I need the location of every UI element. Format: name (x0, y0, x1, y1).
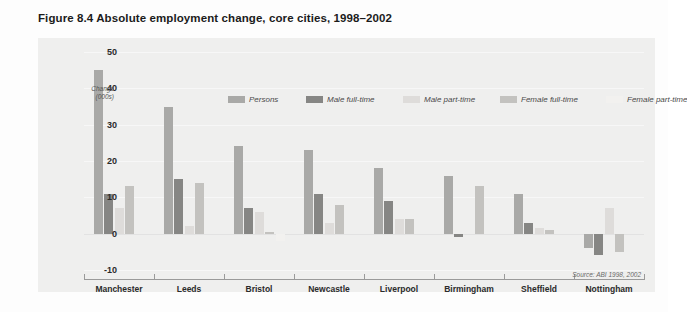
legend-label: Male part-time (424, 95, 475, 104)
bar (535, 228, 544, 233)
bar (454, 234, 463, 238)
y-axis-title-line2: (000s) (96, 93, 114, 100)
legend-item: Male full-time (306, 90, 375, 102)
x-axis-tick (644, 274, 645, 280)
bar-group (574, 52, 644, 270)
bar-groups (84, 52, 644, 270)
category-label-sheffield: Sheffield (521, 284, 557, 294)
bar (444, 176, 453, 234)
y-tick-label-30: 30 (93, 120, 117, 130)
legend-label: Female full-time (521, 95, 578, 104)
bar (185, 226, 194, 233)
y-axis-title: Change (000s) (80, 85, 114, 100)
x-axis-tick (434, 274, 435, 280)
category-label-birmingham: Birmingham (444, 284, 494, 294)
bar (384, 201, 393, 234)
legend-swatch-icon (306, 96, 323, 103)
y-tick-label-0: 0 (93, 229, 117, 239)
bar (605, 208, 614, 233)
x-axis-tick (224, 274, 225, 280)
bar (174, 179, 183, 234)
x-axis-tick (294, 274, 295, 280)
bar-group (504, 52, 574, 270)
y-tick-label--10: -10 (93, 265, 117, 275)
bar (374, 168, 383, 233)
category-label-bristol: Bristol (246, 284, 273, 294)
gridline--10 (84, 270, 644, 271)
legend-label: Persons (249, 95, 278, 104)
legend-swatch-icon (403, 96, 420, 103)
bar (164, 107, 173, 234)
bar-group (224, 52, 294, 270)
legend-swatch-icon (228, 96, 245, 103)
y-tick-label-10: 10 (93, 192, 117, 202)
legend-swatch-icon (606, 96, 623, 103)
bar (276, 234, 285, 241)
bar (265, 232, 274, 234)
y-tick-label-50: 50 (93, 47, 117, 57)
bar-group (154, 52, 224, 270)
bar-group (294, 52, 364, 270)
y-axis-ticks: 50403020100-10 (93, 38, 117, 292)
bar-group (434, 52, 504, 270)
bar-group (364, 52, 434, 270)
legend-swatch-icon (500, 96, 517, 103)
bar (475, 186, 484, 233)
bar (594, 234, 603, 256)
page-title: Figure 8.4 Absolute employment change, c… (38, 12, 392, 24)
bar (524, 223, 533, 234)
y-axis-title-line1: Change (91, 85, 114, 92)
bar (255, 212, 264, 234)
bar (325, 223, 334, 234)
legend-item: Female full-time (500, 90, 578, 102)
category-label-leeds: Leeds (177, 284, 202, 294)
bar (244, 208, 253, 233)
category-label-liverpool: Liverpool (380, 284, 418, 294)
source-note: Source: ABI 1998, 2002 (572, 271, 641, 278)
y-tick-label-20: 20 (93, 156, 117, 166)
legend-label: Female part-time (627, 95, 687, 104)
legend-item: Male part-time (403, 90, 475, 102)
bar (195, 183, 204, 234)
plot-area (84, 52, 644, 270)
category-label-nottingham: Nottingham (585, 284, 632, 294)
bar (545, 230, 554, 234)
bar (615, 234, 624, 252)
bar (304, 150, 313, 234)
x-axis-tick (364, 274, 365, 280)
bar (405, 219, 414, 234)
legend-item: Persons (228, 90, 278, 102)
bar (314, 194, 323, 234)
x-axis-tick (154, 274, 155, 280)
bar (514, 194, 523, 234)
category-label-newcastle: Newcastle (308, 284, 350, 294)
bar (125, 186, 134, 233)
chart-panel: 50403020100-10 ManchesterLeedsBristolNew… (38, 38, 655, 292)
legend-item: Female part-time (606, 90, 687, 102)
bar (584, 234, 593, 249)
x-axis-tick (504, 274, 505, 280)
x-axis-tick (84, 274, 85, 280)
bar (335, 205, 344, 234)
legend-label: Male full-time (327, 95, 375, 104)
bar (395, 219, 404, 234)
category-label-manchester: Manchester (95, 284, 142, 294)
bar (234, 146, 243, 233)
